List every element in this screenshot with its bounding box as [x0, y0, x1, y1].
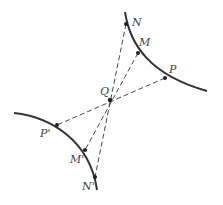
label-N: N [131, 16, 142, 29]
label-P-prime: P' [39, 127, 50, 140]
point-P-prime [55, 123, 59, 127]
label-P: P [168, 63, 177, 76]
label-M: M [138, 36, 151, 49]
label-Q: Q [100, 85, 109, 98]
point-M-prime [83, 148, 87, 152]
point-N [124, 22, 128, 26]
label-M-prime: M' [69, 153, 84, 166]
point-M [136, 51, 140, 55]
label-N-prime: N' [81, 180, 95, 193]
labels: NMPP'M'N'Q [39, 16, 177, 193]
hyperbola-diagram: NMPP'M'N'Q [0, 0, 223, 205]
point-Q [108, 98, 112, 102]
point-P [163, 76, 167, 80]
point-N-prime [93, 175, 97, 179]
